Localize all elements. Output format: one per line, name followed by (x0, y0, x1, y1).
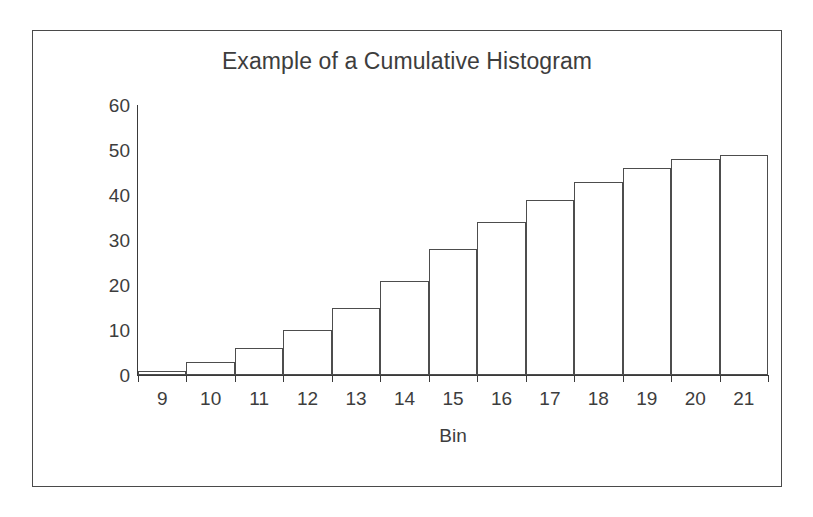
y-axis-tick-label: 60 (90, 96, 130, 115)
y-axis-tick-label: 10 (90, 321, 130, 340)
chart-title: Example of a Cumulative Histogram (32, 48, 782, 75)
x-axis-tick-label: 21 (720, 388, 768, 410)
y-axis-tick-label: 30 (90, 231, 130, 250)
x-axis-tick-mark (623, 375, 624, 382)
x-axis-tick-label: 13 (332, 388, 380, 410)
x-axis-tick-mark (477, 375, 478, 382)
plot-area (138, 105, 768, 375)
histogram-bar (574, 182, 622, 376)
histogram-bar (332, 308, 380, 376)
x-axis-tick-mark (429, 375, 430, 382)
histogram-bar (235, 348, 283, 375)
histogram-bar (429, 249, 477, 375)
x-axis-tick-label: 16 (477, 388, 525, 410)
y-axis-tick-label: 40 (90, 186, 130, 205)
histogram-bar (283, 330, 331, 375)
histogram-bar (526, 200, 574, 376)
x-axis-tick-label: 15 (429, 388, 477, 410)
x-axis-tick-label: 11 (235, 388, 283, 410)
x-axis-tick-mark (720, 375, 721, 382)
histogram-bar (186, 362, 234, 376)
x-axis-tick-mark (138, 375, 139, 382)
histogram-bar (720, 155, 768, 376)
x-axis-tick-mark (671, 375, 672, 382)
x-axis-tick-label: 14 (380, 388, 428, 410)
histogram-bar (477, 222, 525, 375)
x-axis-tick-mark (574, 375, 575, 382)
x-axis-tick-mark (283, 375, 284, 382)
x-axis-tick-mark (380, 375, 381, 382)
x-axis-tick-label: 18 (574, 388, 622, 410)
x-axis-tick-mark (186, 375, 187, 382)
y-axis-tick-label: 50 (90, 141, 130, 160)
y-axis-tick-label: 0 (90, 366, 130, 385)
x-axis-tick-mark (332, 375, 333, 382)
x-axis-tick-mark (768, 375, 769, 382)
x-axis-title: Bin (138, 425, 768, 447)
x-axis-tick-label: 19 (623, 388, 671, 410)
figure-canvas: Example of a Cumulative Histogram Cumula… (0, 0, 813, 517)
histogram-bar (671, 159, 719, 375)
histogram-bar (138, 371, 186, 376)
x-axis-tick-label: 9 (138, 388, 186, 410)
y-axis-tick-labels: 0102030405060 (90, 105, 130, 375)
x-axis-tick-label: 12 (283, 388, 331, 410)
y-axis-tick-label: 20 (90, 276, 130, 295)
x-axis-line (137, 375, 768, 376)
x-axis-tick-label: 17 (526, 388, 574, 410)
x-axis-tick-mark (526, 375, 527, 382)
histogram-bar (623, 168, 671, 375)
x-axis-tick-label: 10 (186, 388, 234, 410)
x-axis-tick-mark (235, 375, 236, 382)
x-axis-tick-label: 20 (671, 388, 719, 410)
histogram-bar (380, 281, 428, 376)
